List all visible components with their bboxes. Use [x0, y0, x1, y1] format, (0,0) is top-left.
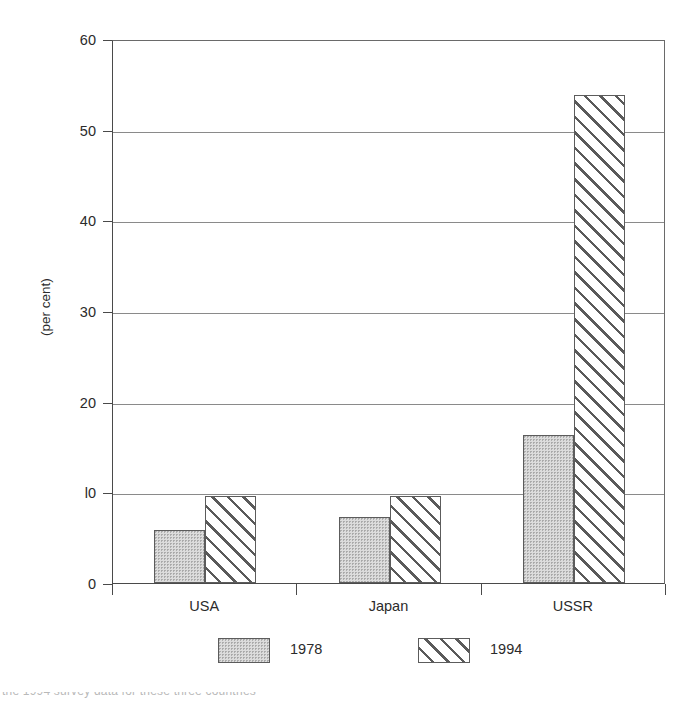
- hatched-swatch-icon: [418, 638, 470, 663]
- y-tick-label: 60: [36, 33, 96, 48]
- x-tick-mark: [112, 584, 113, 595]
- y-tick-label: 40: [36, 214, 96, 229]
- y-tick-mark: [103, 584, 112, 585]
- x-tick-mark: [296, 584, 297, 595]
- y-tick-mark: [103, 312, 112, 313]
- bar-usa-1994: [205, 496, 256, 583]
- dotted-swatch-icon: [218, 638, 270, 663]
- bar-japan-1994: [390, 496, 441, 583]
- x-tick-label-japan: Japan: [309, 598, 469, 614]
- bar-ussr-1978: [523, 435, 574, 583]
- chart-legend: 1978 1994: [0, 636, 690, 668]
- y-tick-mark: [103, 493, 112, 494]
- clipped-caption-remnant: the 1994 survey data for these three cou…: [2, 692, 688, 705]
- legend-label-1994: 1994: [490, 641, 522, 657]
- bar-ussr-1994: [574, 95, 625, 583]
- x-tick-label-usa: USA: [124, 598, 284, 614]
- clipped-caption-text: the 1994 survey data for these three cou…: [2, 692, 688, 698]
- y-tick-label: 0: [36, 577, 96, 592]
- y-tick-mark: [103, 403, 112, 404]
- y-tick-mark: [103, 131, 112, 132]
- y-tick-mark: [103, 40, 112, 41]
- y-tick-label: 50: [36, 124, 96, 139]
- bar-usa-1978: [154, 530, 205, 583]
- x-tick-mark: [665, 584, 666, 595]
- legend-label-1978: 1978: [290, 641, 322, 657]
- y-tick-label: 20: [36, 396, 96, 411]
- bar-chart-figure: (per cent) 0l02030405060 USAJapanUSSR 19…: [0, 0, 690, 706]
- bar-japan-1978: [339, 517, 390, 583]
- x-tick-mark: [481, 584, 482, 595]
- y-tick-mark: [103, 221, 112, 222]
- y-tick-label: 30: [36, 305, 96, 320]
- plot-area: [112, 40, 665, 584]
- y-tick-label: l0: [36, 486, 96, 501]
- x-tick-label-ussr: USSR: [493, 598, 653, 614]
